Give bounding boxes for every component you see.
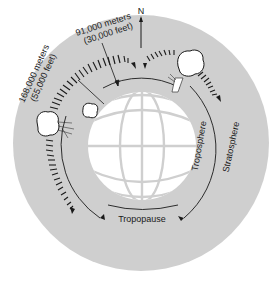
compass-north-label: N — [138, 6, 145, 16]
atmosphere-circulation-diagram: N 91,000 meters (30,000 feet) 168,000 me… — [0, 0, 278, 286]
tropopause-label: Tropopause — [118, 214, 166, 224]
cloud-middle — [83, 103, 98, 118]
